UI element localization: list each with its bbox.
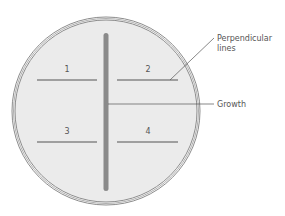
perpendicular-lines-label: Perpendicular	[217, 34, 273, 43]
growth-streak	[104, 33, 109, 191]
petri-dish-diagram: 1 2 3 4 Perpendicular lines Growth	[0, 0, 285, 216]
segment-number-4: 4	[145, 127, 150, 136]
segment-number-1: 1	[64, 65, 69, 74]
segment-number-3: 3	[64, 127, 69, 136]
growth-label: Growth	[217, 100, 246, 109]
segment-number-2: 2	[145, 65, 150, 74]
perpendicular-lines-label-2: lines	[217, 44, 236, 53]
